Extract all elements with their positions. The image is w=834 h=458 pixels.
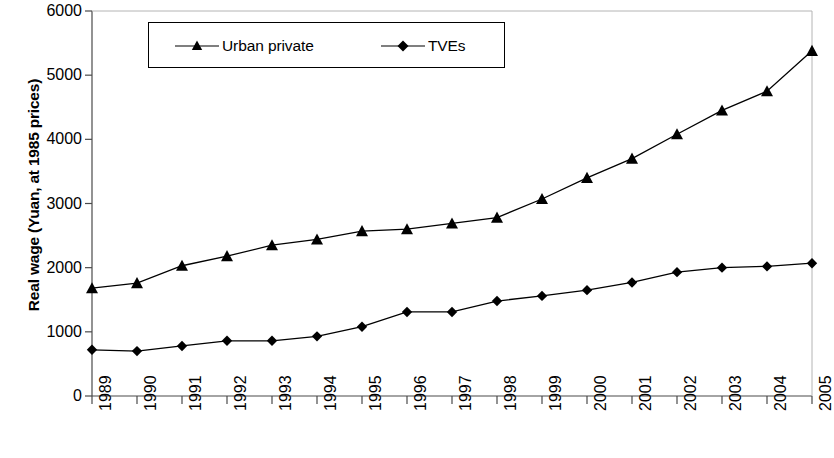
- legend-entry-tves: TVEs: [381, 35, 466, 57]
- legend-marker-diamond-icon: [381, 39, 425, 53]
- legend-marker-triangle-icon: [175, 39, 219, 53]
- x-axis-tick-label: 1992: [233, 375, 249, 411]
- x-axis-tick-label: 1997: [458, 375, 474, 411]
- x-axis-tick-label: 1999: [548, 375, 564, 411]
- x-axis-tick-label: 1994: [323, 375, 339, 411]
- legend-entry-urban-private: Urban private: [175, 35, 314, 57]
- x-axis-tick-label: 2005: [818, 375, 834, 411]
- x-axis-tick-label: 1993: [278, 375, 294, 411]
- x-axis-tick-label: 2002: [683, 375, 699, 411]
- x-axis-tick-label: 1995: [368, 375, 384, 411]
- legend-label-tves: TVEs: [428, 37, 466, 55]
- x-axis-tick-label: 2004: [773, 375, 789, 411]
- x-axis-tick-label: 1990: [143, 375, 159, 411]
- x-axis-tick-label: 1991: [188, 375, 204, 411]
- legend-label-urban-private: Urban private: [222, 37, 314, 55]
- x-axis-tick-label: 2001: [638, 375, 654, 411]
- x-axis-tick-label: 2003: [728, 375, 744, 411]
- x-axis-tick-label: 2000: [593, 375, 609, 411]
- x-axis-tick-label: 1998: [503, 375, 519, 411]
- chart-legend: Urban private TVEs: [148, 22, 505, 68]
- x-axis-tick-label: 1996: [413, 375, 429, 411]
- x-axis-tick-label: 1989: [98, 375, 114, 411]
